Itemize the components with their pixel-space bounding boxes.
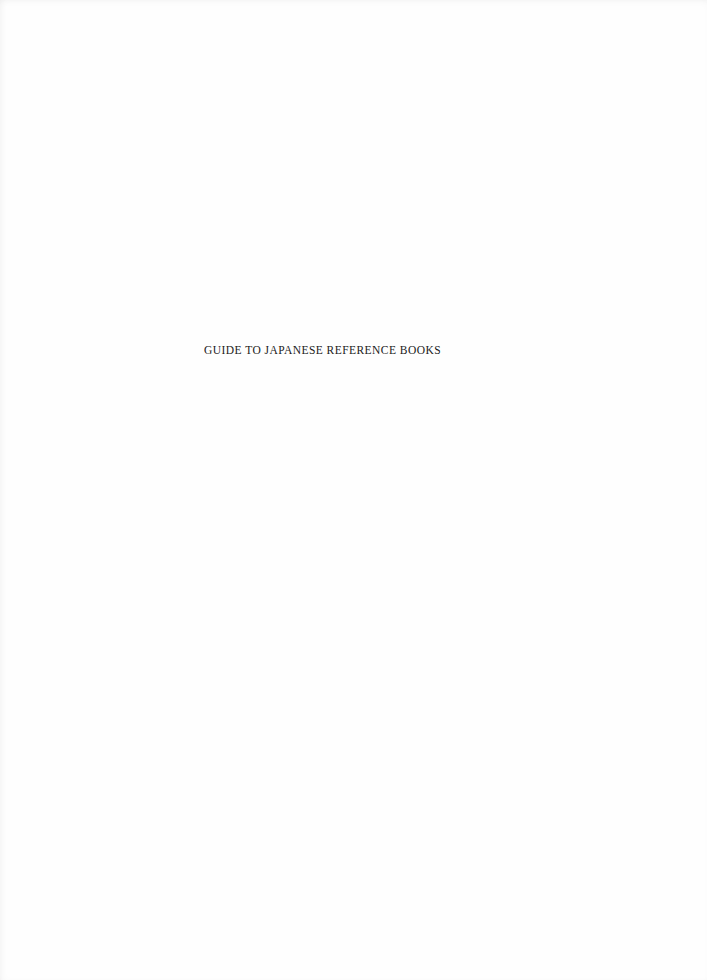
half-title: GUIDE TO JAPANESE REFERENCE BOOKS [204,344,441,356]
book-page: GUIDE TO JAPANESE REFERENCE BOOKS [0,0,707,980]
